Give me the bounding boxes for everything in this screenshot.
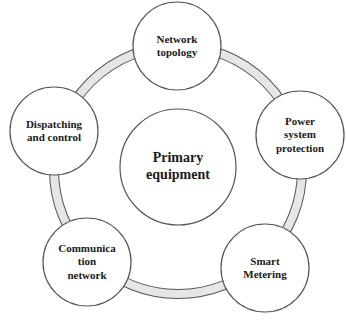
node-label-power-system-protection: Power system protection bbox=[256, 91, 344, 179]
center-label: Primary equipment bbox=[120, 109, 236, 225]
node-label-communication-network: Communica tion network bbox=[43, 218, 131, 306]
node-label-smart-metering: Smart Metering bbox=[221, 224, 309, 312]
node-label-network-topology: Network topology bbox=[133, 2, 221, 90]
node-label-dispatching-and-control: Dispatching and control bbox=[10, 87, 98, 175]
